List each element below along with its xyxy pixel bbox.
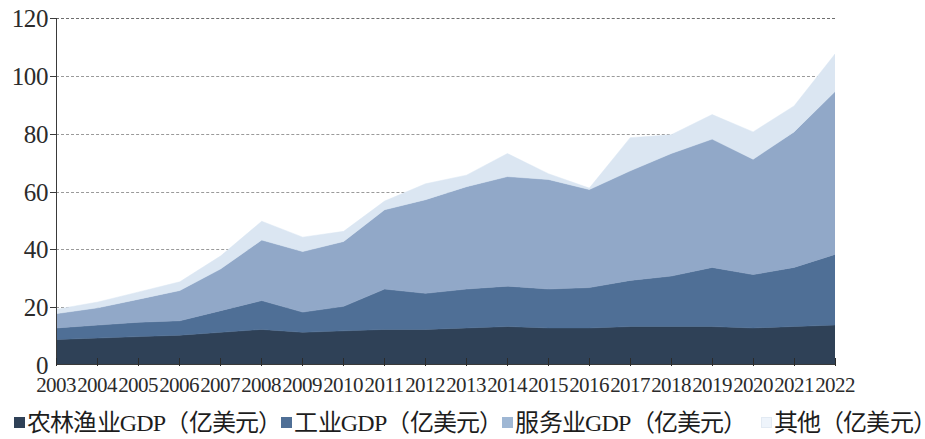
x-tick-mark-2011 [384, 358, 385, 366]
y-tick-label-120: 120 [12, 6, 48, 31]
y-tick-label-60: 60 [24, 179, 48, 204]
x-tick-label-2004: 2004 [77, 372, 117, 398]
legend-label-services: 服务业GDP（亿美元） [515, 409, 746, 437]
x-tick-label-2014: 2014 [487, 372, 527, 398]
y-axis: 120 100 80 60 40 20 0 [0, 0, 48, 383]
x-tick-mark-2022 [835, 358, 836, 366]
x-tick-label-2020: 2020 [733, 372, 773, 398]
x-tick-label-2008: 2008 [241, 372, 281, 398]
x-tick-mark-2017 [630, 358, 631, 366]
y-tick-label-100: 100 [12, 63, 48, 88]
x-tick-mark-2015 [548, 358, 549, 366]
x-tick-label-2012: 2012 [405, 372, 445, 398]
legend-item-other[interactable]: 其他（亿美元） [761, 409, 925, 437]
legend-item-agriculture[interactable]: 农林渔业GDP（亿美元） [14, 409, 281, 437]
x-tick-mark-2012 [425, 358, 426, 366]
y-tick-label-80: 80 [24, 121, 48, 146]
x-tick-mark-2005 [138, 358, 139, 366]
x-tick-label-2018: 2018 [651, 372, 691, 398]
x-tick-label-2021: 2021 [774, 372, 814, 398]
legend-label-agriculture: 农林渔业GDP（亿美元） [27, 409, 281, 437]
x-tick-mark-2020 [753, 358, 754, 366]
x-tick-label-2013: 2013 [446, 372, 486, 398]
x-tick-label-2006: 2006 [159, 372, 199, 398]
x-tick-mark-2019 [712, 358, 713, 366]
x-tick-mark-2008 [261, 358, 262, 366]
x-tick-label-2009: 2009 [282, 372, 322, 398]
plot-area [56, 18, 835, 365]
x-axis-labels: 2003200420052006200720082009201020112012… [0, 372, 856, 402]
x-tick-label-2017: 2017 [610, 372, 650, 398]
chart-legend: 农林渔业GDP（亿美元） 工业GDP（亿美元） 服务业GDP（亿美元） 其他（亿… [0, 406, 856, 439]
y-tick-label-20: 20 [24, 295, 48, 320]
legend-label-other: 其他（亿美元） [774, 409, 925, 437]
x-tick-label-2005: 2005 [118, 372, 158, 398]
x-tick-mark-2004 [97, 358, 98, 366]
x-tick-label-2007: 2007 [200, 372, 240, 398]
x-tick-mark-2018 [671, 358, 672, 366]
x-tick-label-2011: 2011 [365, 372, 404, 398]
x-tick-mark-2009 [302, 358, 303, 366]
x-tick-mark-2007 [220, 358, 221, 366]
legend-item-services[interactable]: 服务业GDP（亿美元） [502, 409, 746, 437]
x-tick-label-2022: 2022 [815, 372, 855, 398]
legend-label-industry: 工业GDP（亿美元） [294, 409, 502, 437]
x-tick-label-2015: 2015 [528, 372, 568, 398]
x-tick-mark-2021 [794, 358, 795, 366]
legend-swatch-agriculture-icon [14, 417, 25, 428]
x-tick-label-2016: 2016 [569, 372, 609, 398]
x-tick-label-2003: 2003 [36, 372, 76, 398]
legend-item-industry[interactable]: 工业GDP（亿美元） [281, 409, 502, 437]
x-tick-mark-2003 [56, 358, 57, 366]
x-tick-mark-2016 [589, 358, 590, 366]
y-tick-label-40: 40 [24, 237, 48, 262]
x-tick-mark-2010 [343, 358, 344, 366]
legend-swatch-other-icon [761, 417, 772, 428]
x-tick-mark-2013 [466, 358, 467, 366]
legend-swatch-services-icon [502, 417, 513, 428]
x-tick-mark-2014 [507, 358, 508, 366]
x-tick-mark-2006 [179, 358, 180, 366]
x-tick-label-2019: 2019 [692, 372, 732, 398]
legend-swatch-industry-icon [281, 417, 292, 428]
x-tick-label-2010: 2010 [323, 372, 363, 398]
area-series-svg [57, 18, 835, 364]
